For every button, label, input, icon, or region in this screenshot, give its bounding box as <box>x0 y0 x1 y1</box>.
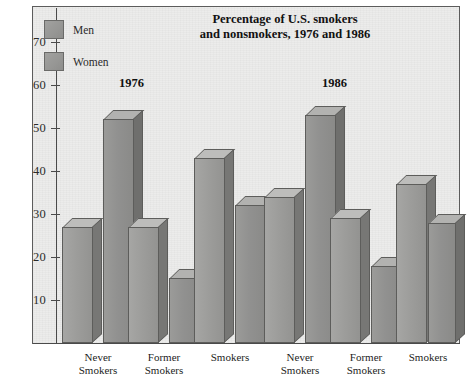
bar-1986-smokers-men <box>396 184 427 343</box>
y-tick-70 <box>51 42 60 43</box>
y-tick-label-50: 50 <box>33 121 46 136</box>
xlabel-1986-smokers: Smokers <box>392 351 464 364</box>
legend-label-men: Men <box>73 24 94 36</box>
xlabel-line2: Smokers <box>330 364 402 377</box>
chart-root: 70 60 50 40 30 20 10 Men Women Percentag… <box>0 0 467 381</box>
xlabel-line1: Never <box>62 351 134 364</box>
bar-side-face <box>360 209 370 343</box>
xlabel-line1: Smokers <box>194 351 266 364</box>
y-tick-label-60: 60 <box>33 78 46 93</box>
bar-1986-smokers-women <box>428 223 456 343</box>
bar-side-face <box>92 218 102 343</box>
bar-1976-smokers-women <box>235 205 266 343</box>
y-tick-label-30: 30 <box>33 207 46 222</box>
y-tick-60 <box>51 85 60 86</box>
xlabel-line2: Smokers <box>62 364 134 377</box>
chart-title-line1: Percentage of U.S. smokers <box>160 12 410 27</box>
bar-front-face <box>330 218 361 343</box>
panel-label-1976: 1976 <box>119 76 144 91</box>
panel-label-1986: 1986 <box>322 76 347 91</box>
chart-title: Percentage of U.S. smokers and nonsmoker… <box>160 12 410 42</box>
bar-side-face <box>224 149 234 343</box>
xlabel-line2: Smokers <box>128 364 200 377</box>
bar-front-face <box>194 158 225 343</box>
bar-side-face <box>294 188 304 343</box>
bar-front-face <box>128 227 159 343</box>
legend-item-women: Women <box>44 52 108 71</box>
bar-front-face <box>235 205 266 343</box>
bar-1976-smokers-men <box>194 158 225 343</box>
legend-label-women: Women <box>73 56 108 68</box>
legend-swatch-men <box>44 20 64 39</box>
xlabel-line1: Smokers <box>392 351 464 364</box>
bar-1986-former-men <box>330 218 361 343</box>
xlabel-line2: Smokers <box>264 364 336 377</box>
bar-side-face <box>158 218 168 343</box>
bar-1986-never-men <box>264 197 295 343</box>
y-tick-label-20: 20 <box>33 250 46 265</box>
y-tick-label-40: 40 <box>33 164 46 179</box>
y-tick-50 <box>51 128 60 129</box>
y-tick-20 <box>51 257 60 258</box>
bar-side-face <box>455 214 465 343</box>
bar-front-face <box>264 197 295 343</box>
bar-front-face <box>396 184 427 343</box>
y-tick-label-10: 10 <box>33 293 46 308</box>
legend-swatch-women <box>44 52 64 71</box>
y-tick-40 <box>51 171 60 172</box>
xlabel-line1: Never <box>264 351 336 364</box>
xlabel-1976-never: Never Smokers <box>62 351 134 377</box>
y-tick-10 <box>51 300 60 301</box>
legend-item-men: Men <box>44 20 94 39</box>
x-axis-baseline <box>33 343 460 344</box>
y-tick-30 <box>51 214 60 215</box>
bar-1976-never-men <box>62 227 93 343</box>
xlabel-1976-smokers: Smokers <box>194 351 266 364</box>
bar-1976-former-men <box>128 227 159 343</box>
bar-front-face <box>62 227 93 343</box>
xlabel-line1: Former <box>128 351 200 364</box>
xlabel-1986-never: Never Smokers <box>264 351 336 377</box>
chart-title-line2: and nonsmokers, 1976 and 1986 <box>160 27 410 42</box>
xlabel-1976-former: Former Smokers <box>128 351 200 377</box>
bar-front-face <box>428 223 456 343</box>
